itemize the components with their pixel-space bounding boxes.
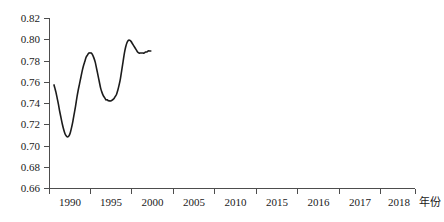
x-tick-label: 2017 [349, 196, 372, 208]
y-tick-label: 0.82 [21, 12, 40, 24]
x-tick-label: 2016 [308, 196, 331, 208]
line-chart: 0.82 0.80 0.78 0.76 0.74 0.72 0.70 0.68 … [0, 0, 444, 222]
y-axis-ticks [44, 19, 50, 189]
y-tick-label: 0.68 [21, 161, 41, 173]
y-tick-label: 0.72 [21, 118, 40, 130]
x-tick-label: 2018 [388, 196, 411, 208]
x-tick-label: 2000 [142, 196, 165, 208]
y-tick-label: 0.80 [21, 33, 41, 45]
x-tick-label: 2005 [183, 196, 206, 208]
x-axis-title: 年份 [419, 195, 441, 208]
series-line-1 [54, 40, 151, 137]
y-tick-label: 0.76 [21, 76, 41, 88]
y-tick-label: 0.70 [21, 140, 41, 152]
x-tick-label: 1990 [59, 196, 82, 208]
x-tick-label: 2010 [225, 196, 248, 208]
y-tick-label: 0.74 [21, 97, 41, 109]
y-tick-label: 0.66 [21, 182, 41, 194]
x-tick-label: 1995 [100, 196, 123, 208]
x-tick-label: 2015 [266, 196, 289, 208]
chart-page: 0.82 0.80 0.78 0.76 0.74 0.72 0.70 0.68 … [0, 0, 444, 222]
x-axis-ticks [50, 189, 416, 195]
y-tick-label: 0.78 [21, 55, 41, 67]
